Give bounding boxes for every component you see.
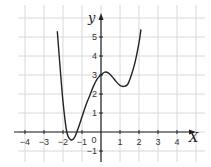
y-tick-label: −1 (87, 146, 97, 156)
x-tick-label: −4 (20, 137, 30, 147)
y-tick-label: 5 (92, 32, 97, 42)
x-tick-label: 0 (91, 135, 96, 145)
x-tick-label: 4 (174, 137, 179, 147)
function-curve (57, 29, 141, 140)
x-tick-label: 3 (155, 137, 160, 147)
x-tick-label: −2 (58, 137, 68, 147)
x-tick-label: 1 (117, 137, 122, 147)
x-tick-label: 2 (136, 137, 141, 147)
x-tick-label: −1 (77, 137, 87, 147)
y-axis-label: y (87, 10, 96, 25)
x-tick-label: −3 (39, 137, 49, 147)
function-graph: −4−3−2−101234−112345 X y (0, 0, 211, 167)
x-axis-label: X (188, 130, 199, 145)
y-tick-label: 2 (92, 89, 97, 99)
y-tick-label: 4 (92, 51, 97, 61)
y-tick-label: 1 (92, 108, 97, 118)
y-axis-arrow-icon (99, 13, 104, 20)
y-tick-label: 3 (92, 70, 97, 80)
